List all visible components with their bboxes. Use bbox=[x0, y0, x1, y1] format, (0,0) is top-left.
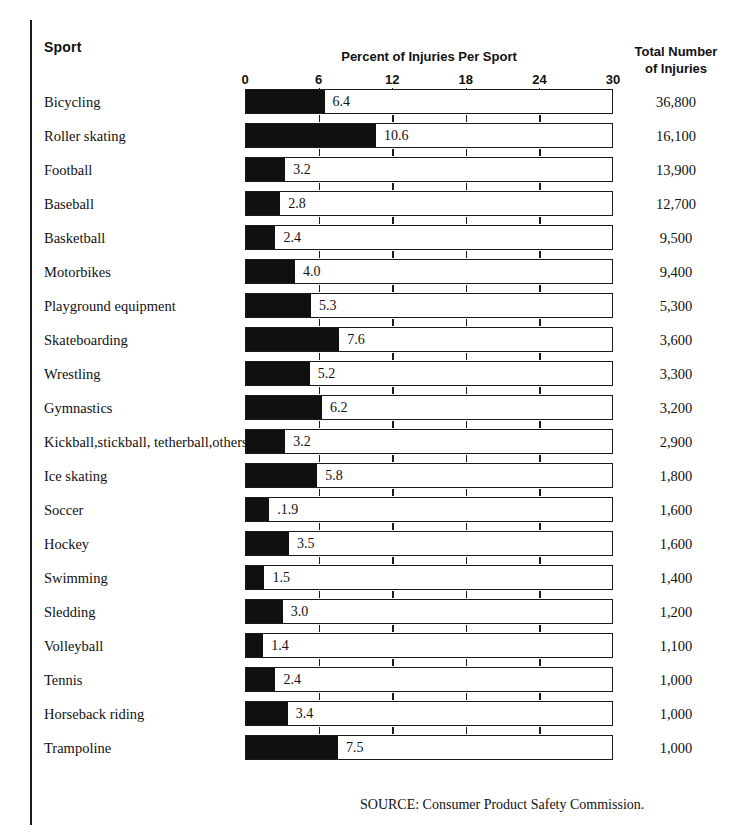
bar-value-label: 10.6 bbox=[384, 128, 409, 144]
bar-row: 7.5 bbox=[245, 735, 613, 760]
bar-value-label: 5.8 bbox=[325, 468, 343, 484]
column-header-sport: Sport bbox=[44, 39, 82, 55]
inter-row-tick bbox=[466, 285, 468, 292]
inter-row-tick bbox=[539, 523, 541, 530]
bar-value-label: 3.0 bbox=[291, 604, 309, 620]
sport-label: Swimming bbox=[44, 569, 108, 586]
inter-row-tick bbox=[392, 217, 394, 224]
total-injuries-value: 1,200 bbox=[613, 603, 739, 620]
inter-row-tick bbox=[466, 557, 468, 564]
bar-fill bbox=[246, 600, 283, 623]
bar-row: 10.6 bbox=[245, 123, 613, 148]
inter-row-tick bbox=[319, 591, 321, 598]
bar-row: 5.2 bbox=[245, 361, 613, 386]
inter-row-tick bbox=[466, 727, 468, 734]
inter-row-tick bbox=[466, 421, 468, 428]
inter-row-tick bbox=[392, 319, 394, 326]
inter-row-tick bbox=[319, 523, 321, 530]
sport-label: Trampoline bbox=[44, 739, 111, 756]
inter-row-tick bbox=[466, 319, 468, 326]
column-header-total-line1: Total Number bbox=[613, 43, 739, 60]
inter-row-tick bbox=[466, 591, 468, 598]
bar-value-label: 1.5 bbox=[272, 570, 290, 586]
inter-row-tick bbox=[392, 523, 394, 530]
bar-fill bbox=[246, 464, 317, 487]
column-header-total-injuries: Total Number of Injuries bbox=[613, 43, 739, 77]
x-axis-tick-label: 24 bbox=[532, 72, 546, 87]
inter-row-tick bbox=[392, 251, 394, 258]
bar-value-label: 2.8 bbox=[288, 196, 306, 212]
column-header-total-line2: of Injuries bbox=[613, 60, 739, 77]
total-injuries-value: 1,600 bbox=[613, 535, 739, 552]
sport-label: Soccer bbox=[44, 501, 83, 518]
bar-value-label: .1.9 bbox=[277, 502, 298, 518]
inter-row-tick bbox=[319, 353, 321, 360]
total-injuries-value: 3,200 bbox=[613, 399, 739, 416]
inter-row-tick bbox=[539, 149, 541, 156]
bar-row: 1.4 bbox=[245, 633, 613, 658]
inter-row-tick bbox=[539, 353, 541, 360]
total-injuries-value: 9,400 bbox=[613, 263, 739, 280]
inter-row-tick bbox=[319, 217, 321, 224]
total-injuries-value: 1,400 bbox=[613, 569, 739, 586]
inter-row-tick bbox=[319, 251, 321, 258]
bar-fill bbox=[246, 532, 289, 555]
bar-value-label: 2.4 bbox=[283, 230, 301, 246]
sport-label: Hockey bbox=[44, 535, 89, 552]
bar-fill bbox=[246, 226, 275, 249]
x-axis-tick-label: 6 bbox=[315, 72, 322, 87]
inter-row-tick bbox=[539, 591, 541, 598]
inter-row-tick bbox=[539, 421, 541, 428]
page-left-rule bbox=[30, 20, 32, 825]
inter-row-tick bbox=[466, 387, 468, 394]
sport-label: Sledding bbox=[44, 603, 96, 620]
inter-row-tick bbox=[319, 421, 321, 428]
inter-row-tick bbox=[319, 183, 321, 190]
total-injuries-value: 1,800 bbox=[613, 467, 739, 484]
chart-title: Percent of Injuries Per Sport bbox=[245, 49, 613, 64]
inter-row-tick bbox=[539, 455, 541, 462]
inter-row-tick bbox=[466, 455, 468, 462]
total-injuries-value: 1,000 bbox=[613, 705, 739, 722]
bar-value-label: 5.2 bbox=[318, 366, 336, 382]
sport-label: Wrestling bbox=[44, 365, 101, 382]
sport-label: Basketball bbox=[44, 229, 105, 246]
bar-value-label: 3.2 bbox=[293, 162, 311, 178]
bar-row: 6.2 bbox=[245, 395, 613, 420]
sport-label: Gymnastics bbox=[44, 399, 112, 416]
x-axis-tick-label: 0 bbox=[241, 72, 248, 87]
x-axis-tick-label: 18 bbox=[459, 72, 473, 87]
inter-row-tick bbox=[539, 387, 541, 394]
inter-row-tick bbox=[392, 489, 394, 496]
inter-row-tick bbox=[539, 251, 541, 258]
inter-row-tick bbox=[466, 659, 468, 666]
sport-label: Roller skating bbox=[44, 127, 126, 144]
sport-label: Skateboarding bbox=[44, 331, 128, 348]
x-axis-tick-label: 30 bbox=[606, 72, 620, 87]
inter-row-tick bbox=[392, 727, 394, 734]
bar-value-label: 6.2 bbox=[330, 400, 348, 416]
sport-label: Ice skating bbox=[44, 467, 107, 484]
bar-fill bbox=[246, 566, 264, 589]
inter-row-tick bbox=[319, 455, 321, 462]
inter-row-tick bbox=[539, 285, 541, 292]
inter-row-tick bbox=[392, 353, 394, 360]
bar-fill bbox=[246, 702, 288, 725]
bar-row: 3.0 bbox=[245, 599, 613, 624]
bar-value-label: 3.2 bbox=[293, 434, 311, 450]
inter-row-tick bbox=[319, 319, 321, 326]
bar-value-label: 3.4 bbox=[296, 706, 314, 722]
inter-row-tick bbox=[466, 183, 468, 190]
inter-row-tick bbox=[319, 285, 321, 292]
total-injuries-value: 1,600 bbox=[613, 501, 739, 518]
bar-row: 3.5 bbox=[245, 531, 613, 556]
total-injuries-value: 3,600 bbox=[613, 331, 739, 348]
bar-row: 2.4 bbox=[245, 667, 613, 692]
inter-row-tick bbox=[319, 727, 321, 734]
bar-value-label: 2.4 bbox=[283, 672, 301, 688]
bar-row: 2.8 bbox=[245, 191, 613, 216]
bar-row: 5.3 bbox=[245, 293, 613, 318]
bar-fill bbox=[246, 396, 322, 419]
bar-value-label: 4.0 bbox=[303, 264, 321, 280]
bar-fill bbox=[246, 328, 339, 351]
